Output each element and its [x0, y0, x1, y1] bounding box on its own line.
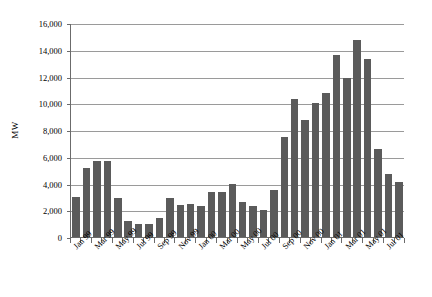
bar — [333, 55, 340, 237]
y-axis-tick-label: 4,000 — [4, 180, 62, 190]
y-axis-tick-label: 8,000 — [4, 126, 62, 136]
bar-slot — [310, 24, 320, 237]
plot-area — [70, 24, 404, 238]
bar-slot — [144, 24, 154, 237]
bar-slot — [290, 24, 300, 237]
bar-slot — [185, 24, 195, 237]
bar — [291, 99, 298, 237]
bar-slot — [227, 24, 237, 237]
bar — [104, 161, 111, 237]
x-axis-tick-labels: Jan 99Mar 99May 99Jul 99Sep 99Nov 99Jan … — [0, 240, 432, 297]
bar-slot — [362, 24, 372, 237]
bar — [374, 149, 381, 237]
bar-slot — [165, 24, 175, 237]
bar — [156, 218, 163, 237]
bar — [353, 40, 360, 237]
y-axis-tick-label: 12,000 — [4, 73, 62, 83]
bar — [364, 59, 371, 237]
bar-slot — [92, 24, 102, 237]
bar — [72, 197, 79, 237]
bar-slot — [133, 24, 143, 237]
bar-slot — [238, 24, 248, 237]
y-axis-tick-label: 10,000 — [4, 99, 62, 109]
bar-slot — [279, 24, 289, 237]
bar-slot — [373, 24, 383, 237]
bar — [93, 161, 100, 237]
bar-slot — [394, 24, 404, 237]
bar — [343, 78, 350, 237]
bar — [385, 174, 392, 237]
bar-slot — [258, 24, 268, 237]
bar-slot — [154, 24, 164, 237]
bar-slot — [321, 24, 331, 237]
bar-slot — [206, 24, 216, 237]
bar-series — [71, 24, 404, 237]
y-axis-tick-label: 6,000 — [4, 153, 62, 163]
bar-slot — [71, 24, 81, 237]
bar-slot — [123, 24, 133, 237]
bar-slot — [248, 24, 258, 237]
bar-slot — [331, 24, 341, 237]
bar — [218, 192, 225, 237]
bar — [312, 103, 319, 237]
bar-slot — [175, 24, 185, 237]
bar-slot — [81, 24, 91, 237]
bar-slot — [102, 24, 112, 237]
bar-slot — [352, 24, 362, 237]
bar — [301, 120, 308, 237]
bar-chart: MW 02,0004,0006,0008,00010,00012,00014,0… — [0, 0, 432, 297]
y-axis-tick-label: 16,000 — [4, 19, 62, 29]
y-axis-tick-label: 14,000 — [4, 46, 62, 56]
bar — [114, 198, 121, 237]
bar-slot — [383, 24, 393, 237]
bar — [83, 168, 90, 237]
bar — [281, 137, 288, 237]
bar-slot — [217, 24, 227, 237]
bar-slot — [196, 24, 206, 237]
bar-slot — [269, 24, 279, 237]
bar — [322, 93, 329, 237]
bar-slot — [342, 24, 352, 237]
y-axis-tick-label: 2,000 — [4, 206, 62, 216]
bar — [177, 205, 184, 237]
bar-slot — [113, 24, 123, 237]
bar-slot — [300, 24, 310, 237]
